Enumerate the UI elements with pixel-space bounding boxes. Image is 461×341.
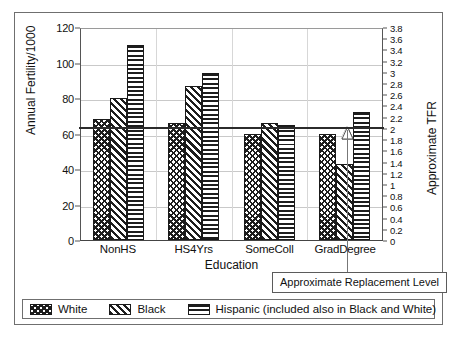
y-axis-right-tick-mark <box>383 95 387 96</box>
y-axis-left-tick-label: 80 <box>62 93 74 105</box>
y-axis-right-tick-mark <box>383 50 387 51</box>
y-axis-right-tick-label: 2.8 <box>390 79 402 90</box>
y-axis-left-tick-mark <box>75 170 80 171</box>
legend-label: Black <box>137 303 165 315</box>
y-axis-right-tick-mark <box>383 229 387 230</box>
plot-wrapper: 020406080100120 00.20.40.60.811.21.41.61… <box>80 28 383 241</box>
legend-label: White <box>58 303 87 315</box>
bar-set <box>156 29 231 240</box>
y-axis-right-tick-mark <box>383 196 387 197</box>
legend-item[interactable]: White <box>30 303 87 315</box>
bar[interactable] <box>202 73 219 240</box>
y-axis-right-tick-label: 1.4 <box>390 157 402 168</box>
bar[interactable] <box>110 98 127 240</box>
y-axis-right-tick-mark <box>383 72 387 73</box>
y-axis-right-tick-mark <box>383 151 387 152</box>
bar-set <box>81 29 156 240</box>
x-axis-tick-label: HS4Yrs <box>156 243 232 255</box>
y-axis-right-tick-label: 3.4 <box>390 45 402 56</box>
y-axis-left-tick-mark <box>75 241 80 242</box>
bar-group <box>156 29 231 240</box>
legend-label: Hispanic (included also in Black and Whi… <box>216 303 437 315</box>
y-axis-right-tick-label: 1.2 <box>390 168 402 179</box>
bar-groups <box>81 29 382 240</box>
bar[interactable] <box>278 125 295 240</box>
y-axis-left-tick-label: 40 <box>62 164 74 176</box>
y-axis-right-tick-mark <box>383 173 387 174</box>
y-axis-right-tick-label: 2 <box>390 123 395 134</box>
bar-set <box>232 29 307 240</box>
x-axis-tick-label: SomeColl <box>232 243 308 255</box>
y-axis-right-tick-mark <box>383 218 387 219</box>
bar[interactable] <box>168 123 185 240</box>
y-axis-right-tick-mark <box>383 61 387 62</box>
y-axis-right-title: Approximate TFR <box>425 101 439 195</box>
y-axis-left-tick-mark <box>75 63 80 64</box>
bar-group <box>232 29 307 240</box>
bar[interactable] <box>127 45 144 240</box>
y-axis-right-tick-label: 0.6 <box>390 202 402 213</box>
legend-swatch-icon <box>30 304 52 315</box>
y-axis-right-tick-label: 2.4 <box>390 101 402 112</box>
y-axis-left-title: Annual Fertility/1000 <box>24 26 38 135</box>
y-axis-right-tick-mark <box>383 241 387 242</box>
x-axis-title: Education <box>80 258 383 272</box>
y-axis-left-tick-label: 0 <box>68 235 74 247</box>
y-axis-right-tick-label: 3.6 <box>390 34 402 45</box>
y-axis-left-tick-mark <box>75 134 80 135</box>
y-axis-left-tick-mark <box>75 205 80 206</box>
y-axis-right-tick-label: 2.6 <box>390 90 402 101</box>
x-axis-tick-label: GradDegree <box>307 243 383 255</box>
y-axis-left-tick-mark <box>75 99 80 100</box>
y-axis-right-tick-label: 3.8 <box>390 23 402 34</box>
y-axis-right-tick-mark <box>383 39 387 40</box>
y-axis-left-tick-mark <box>75 28 80 29</box>
bar[interactable] <box>336 164 353 240</box>
bar[interactable] <box>353 112 370 240</box>
y-axis-right-tick-label: 0.2 <box>390 224 402 235</box>
x-axis-labels: NonHSHS4YrsSomeCollGradDegree <box>80 243 383 255</box>
y-axis-right-tick-label: 0 <box>390 236 395 247</box>
legend-item[interactable]: Black <box>109 303 165 315</box>
y-axis-right-tick-mark <box>383 184 387 185</box>
chart-legend: WhiteBlackHispanic (included also in Bla… <box>22 299 435 319</box>
legend-item[interactable]: Hispanic (included also in Black and Whi… <box>188 303 437 315</box>
y-axis-right-tick-mark <box>383 84 387 85</box>
y-axis-right-tick-label: 3 <box>390 67 395 78</box>
bar-group <box>81 29 156 240</box>
plot-area <box>80 28 383 241</box>
x-axis-tick-label: NonHS <box>80 243 156 255</box>
y-axis-right-tick-mark <box>383 140 387 141</box>
chart-figure: Annual Fertility/1000 Approximate TFR 02… <box>0 0 461 341</box>
y-axis-right-tick-label: 0.8 <box>390 191 402 202</box>
y-axis-left-tick-label: 60 <box>62 129 74 141</box>
y-axis-right-tick-label: 1.6 <box>390 146 402 157</box>
legend-swatch-icon <box>109 304 131 315</box>
replacement-level-line <box>79 127 384 129</box>
y-axis-right-tick-mark <box>383 162 387 163</box>
y-axis-right-tick-label: 0.4 <box>390 213 402 224</box>
y-axis-left-tick-label: 100 <box>56 58 74 70</box>
y-axis-right-tick-mark <box>383 117 387 118</box>
legend-swatch-icon <box>188 304 210 315</box>
bar[interactable] <box>185 86 202 240</box>
y-axis-right-tick-mark <box>383 28 387 29</box>
bar[interactable] <box>93 119 110 240</box>
y-axis-right-tick-mark <box>383 207 387 208</box>
y-axis-right-tick-label: 3.2 <box>390 56 402 67</box>
bar[interactable] <box>319 134 336 241</box>
bar[interactable] <box>261 123 278 240</box>
y-axis-left-tick-label: 20 <box>62 200 74 212</box>
y-axis-right-tick-label: 1.8 <box>390 135 402 146</box>
y-axis-left-tick-label: 120 <box>56 22 74 34</box>
replacement-level-callout: Approximate Replacement Level <box>272 272 447 293</box>
y-axis-right-tick-mark <box>383 106 387 107</box>
y-axis-right-tick-label: 1 <box>390 179 395 190</box>
bar[interactable] <box>244 134 261 241</box>
y-axis-right-tick-label: 2.2 <box>390 112 402 123</box>
